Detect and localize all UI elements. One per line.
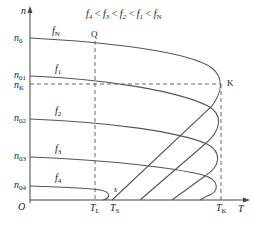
y-tick-n04: n04 bbox=[14, 179, 27, 192]
x-tick-tk: TK bbox=[216, 202, 227, 215]
x-axis-label: T bbox=[238, 203, 245, 214]
x-tick-ts: TS bbox=[110, 202, 120, 215]
x-axis-arrow-icon bbox=[243, 198, 250, 203]
curve-label-f1: f1 bbox=[55, 63, 62, 76]
speed-torque-diagram: f4 < f3 < f2 < f1 < fN n T O n0 n01 nK n… bbox=[0, 0, 253, 226]
origin-label: O bbox=[18, 201, 25, 212]
y-axis-arrow-icon bbox=[28, 6, 33, 13]
curve-label-f2: f2 bbox=[55, 105, 62, 118]
point-label-q: Q bbox=[91, 29, 98, 39]
y-tick-n03: n03 bbox=[14, 150, 27, 163]
y-tick-n0: n0 bbox=[14, 32, 23, 45]
y-axis-label: n bbox=[21, 5, 26, 16]
frequency-order-title: f4 < f3 < f2 < f1 < fN bbox=[86, 8, 162, 21]
axes bbox=[30, 10, 246, 203]
curve-f4 bbox=[30, 186, 109, 200]
point-label-k: K bbox=[227, 78, 234, 88]
y-tick-n02: n02 bbox=[14, 112, 27, 125]
point-label-s: s bbox=[114, 185, 117, 194]
curve-fN bbox=[30, 38, 220, 200]
curve-label-fN: fN bbox=[52, 25, 60, 38]
x-tick-tl: TL bbox=[90, 202, 100, 215]
curve-f2 bbox=[30, 119, 218, 200]
curve-label-f3: f3 bbox=[55, 143, 62, 156]
curve-label-f4: f4 bbox=[55, 172, 62, 185]
